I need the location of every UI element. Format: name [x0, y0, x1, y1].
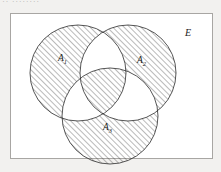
region-triple-intersection-hatch: [0, 0, 221, 172]
label-universe-e: E: [184, 27, 191, 38]
venn-diagram-canvas: A1 A2 A3 E: [0, 0, 221, 172]
venn-diagram-figure: ·· ········: [0, 0, 221, 172]
label-a1-subscript: 1: [64, 58, 67, 65]
hatched-regions: [0, 0, 221, 172]
